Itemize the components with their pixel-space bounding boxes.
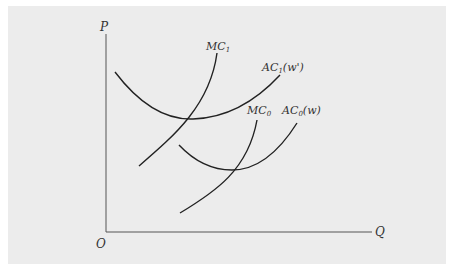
- mc0-curve: [180, 120, 257, 213]
- ac0-label: AC0(w): [281, 104, 321, 118]
- mc1-curve: [139, 53, 217, 166]
- ac0-curve: [179, 123, 297, 170]
- cost-curves-diagram: P O Q MC1 AC1(w') MC0 AC0(w): [0, 0, 456, 272]
- origin-label: O: [96, 237, 106, 251]
- y-axis-label: P: [99, 20, 109, 34]
- mc1-label: MC1: [205, 40, 230, 54]
- x-axis-label: Q: [375, 225, 385, 239]
- ac1-label: AC1(w'): [261, 61, 304, 75]
- mc0-label: MC0: [246, 104, 272, 118]
